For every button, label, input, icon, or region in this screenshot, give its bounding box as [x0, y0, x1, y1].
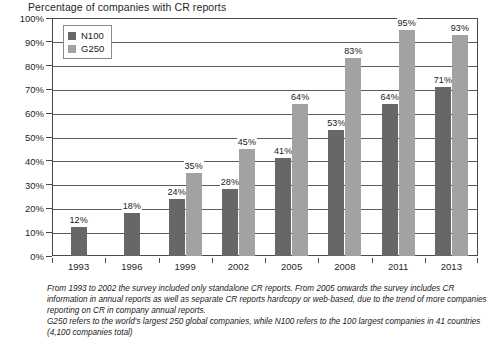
bar-g250-1999[interactable] [186, 173, 202, 256]
x-tick-mark [477, 258, 478, 263]
legend-item-g250: G250 [68, 42, 104, 55]
bar-g250-2002[interactable] [239, 149, 255, 256]
x-axis: 19931996199920022005200820112013 [52, 258, 478, 276]
chart-legend: N100 G250 [63, 25, 112, 59]
bar-g250-2013[interactable] [452, 35, 468, 256]
bar-value-label: 41% [273, 146, 293, 156]
y-tick-label: 40% [25, 155, 44, 166]
bar-value-label: 64% [380, 92, 400, 102]
bar-value-label: 64% [290, 92, 310, 102]
y-tick-label: 90% [25, 36, 44, 47]
x-tick-label: 2013 [441, 261, 462, 272]
bar-n100-1993[interactable] [71, 227, 87, 256]
bar-g250-2011[interactable] [399, 30, 415, 256]
y-tick-label: 80% [25, 60, 44, 71]
footnote-paragraph-2: G250 refers to the world's largest 250 g… [47, 316, 489, 338]
y-tick-label: 70% [25, 84, 44, 95]
x-tick-mark [52, 258, 53, 263]
bar-n100-2005[interactable] [275, 158, 291, 256]
bar-g250-2008[interactable] [345, 58, 361, 256]
bar-g250-2005[interactable] [292, 104, 308, 256]
legend-label-n100: N100 [81, 30, 104, 41]
bar-value-label: 45% [237, 137, 257, 147]
bar-value-label: 12% [69, 215, 89, 225]
bar-n100-2008[interactable] [328, 130, 344, 256]
y-tick-label: 10% [25, 227, 44, 238]
x-tick-label: 2005 [281, 261, 302, 272]
bar-value-label: 83% [343, 46, 363, 56]
x-tick-mark [425, 258, 426, 263]
chart-title: Percentage of companies with CR reports [28, 1, 226, 13]
y-tick-label: 20% [25, 203, 44, 214]
legend-swatch-g250 [68, 45, 76, 53]
bars-layer: 12%18%24%35%28%45%41%64%53%83%64%95%71%9… [52, 18, 478, 256]
y-axis: 0%10%20%30%40%50%60%70%80%90%100% [0, 18, 48, 256]
y-tick-label: 30% [25, 179, 44, 190]
bar-value-label: 24% [167, 187, 187, 197]
bar-value-label: 95% [397, 18, 417, 28]
x-tick-mark [212, 258, 213, 263]
y-tick-label: 0% [30, 251, 44, 262]
bar-n100-1996[interactable] [124, 213, 140, 256]
x-tick-mark [265, 258, 266, 263]
bar-value-label: 18% [122, 201, 142, 211]
x-tick-label: 1993 [68, 261, 89, 272]
bar-n100-1999[interactable] [169, 199, 185, 256]
bar-value-label: 53% [326, 118, 346, 128]
chart-footnote: From 1993 to 2002 the survey included on… [47, 283, 489, 338]
bar-value-label: 35% [184, 161, 204, 171]
bar-n100-2011[interactable] [382, 104, 398, 256]
bar-value-label: 71% [433, 75, 453, 85]
bar-n100-2013[interactable] [435, 87, 451, 256]
legend-item-n100: N100 [68, 29, 104, 42]
x-tick-label: 1999 [175, 261, 196, 272]
x-tick-mark [105, 258, 106, 263]
legend-label-g250: G250 [81, 43, 104, 54]
y-tick-label: 50% [25, 132, 44, 143]
x-tick-label: 2011 [388, 261, 408, 272]
x-tick-label: 1996 [121, 261, 142, 272]
y-tick-label: 100% [20, 13, 44, 24]
legend-swatch-n100 [68, 32, 76, 40]
footnote-paragraph-1: From 1993 to 2002 the survey included on… [47, 283, 489, 316]
bar-n100-2002[interactable] [222, 189, 238, 256]
bar-value-label: 28% [220, 177, 240, 187]
x-tick-mark [318, 258, 319, 263]
y-tick-label: 60% [25, 108, 44, 119]
x-tick-label: 2002 [228, 261, 249, 272]
x-tick-label: 2008 [334, 261, 355, 272]
x-tick-mark [159, 258, 160, 263]
bar-value-label: 93% [450, 23, 470, 33]
x-tick-mark [372, 258, 373, 263]
